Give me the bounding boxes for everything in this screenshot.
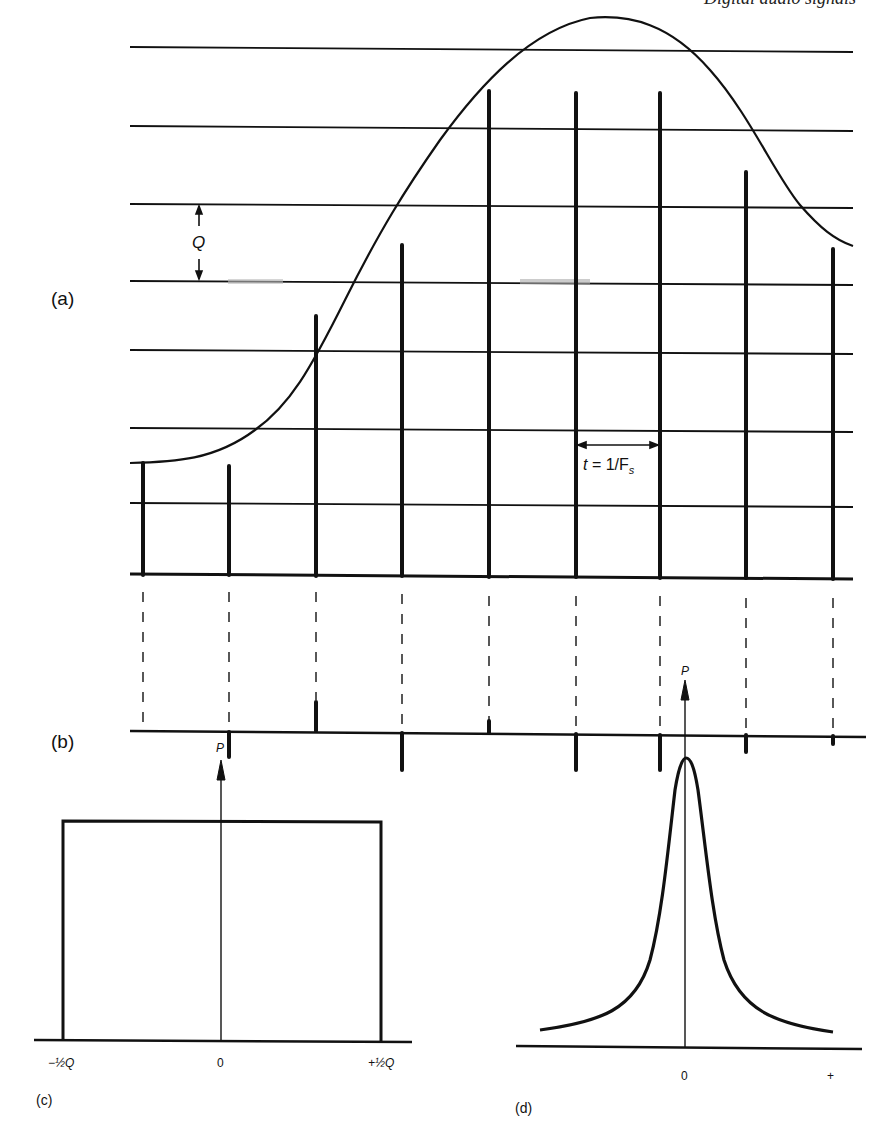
panel-b-label: (b) — [51, 731, 74, 752]
uniform-pdf-rectangle — [63, 821, 381, 1041]
sample-period-indicator — [578, 442, 658, 448]
panel-a — [130, 17, 853, 579]
dashed-projection-lines — [143, 592, 833, 736]
d-arrow-up-icon — [681, 680, 689, 700]
panel-d-label: (d) — [515, 1100, 532, 1116]
panel-c — [34, 760, 412, 1042]
panel-c-label: (c) — [36, 1092, 52, 1108]
figure-canvas: (a) Q t = 1/Fs (b) — [0, 0, 896, 1144]
c-tick-neg-half-q: −½Q — [48, 1056, 74, 1070]
error-axis — [130, 731, 866, 737]
panel-b — [130, 592, 866, 770]
c-tick-pos-half-q: +½Q — [368, 1056, 394, 1070]
d-x-axis — [516, 1046, 862, 1049]
c-x-axis — [34, 1040, 412, 1042]
c-y-label: P — [216, 741, 224, 755]
q-step-label: Q — [192, 233, 205, 252]
d-tick-zero: 0 — [681, 1069, 688, 1083]
c-tick-zero: 0 — [217, 1056, 224, 1070]
c-arrow-up-icon — [217, 760, 225, 780]
peaked-pdf-curve — [540, 758, 833, 1032]
d-tick-plus: + — [827, 1069, 834, 1083]
sample-period-label: t = 1/Fs — [583, 456, 635, 476]
panel-a-label: (a) — [51, 288, 74, 309]
d-y-label: P — [681, 664, 689, 678]
